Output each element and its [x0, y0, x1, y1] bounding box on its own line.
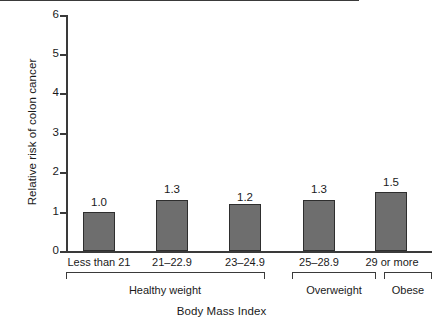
x-axis-title: Body Mass Index — [0, 305, 443, 317]
bar-value-2: 1.2 — [222, 191, 268, 203]
bar-chart: Relative risk of colon cancer 6 5 4 3 2 … — [0, 0, 443, 329]
y-tick-label-5: 5 — [29, 48, 59, 60]
group-label-healthy-weight: Healthy weight — [105, 284, 225, 296]
category-label-2: 23–24.9 — [214, 256, 276, 268]
bar-value-0: 1.0 — [76, 196, 122, 208]
category-label-1: 21–22.9 — [141, 256, 203, 268]
x-axis-baseline — [66, 251, 432, 253]
y-tick-label-2: 2 — [29, 166, 59, 178]
bar-value-4: 1.5 — [368, 176, 414, 188]
category-label-0: Less than 21 — [63, 256, 135, 268]
y-tick-label-4: 4 — [29, 87, 59, 99]
bar-0 — [83, 212, 115, 251]
bar-value-3: 1.3 — [296, 183, 342, 195]
y-tick-label-0: 0 — [29, 245, 59, 257]
group-label-obese: Obese — [383, 284, 433, 296]
y-axis-line — [66, 15, 68, 252]
group-label-overweight: Overweight — [294, 284, 374, 296]
group-bracket-obese — [384, 272, 432, 279]
bar-2 — [229, 204, 261, 251]
category-label-3: 25–28.9 — [288, 256, 350, 268]
reference-line-1 — [0, 0, 359, 1]
bar-4 — [375, 192, 407, 251]
group-bracket-healthy-weight — [66, 272, 265, 279]
y-tick-label-6: 6 — [29, 9, 59, 21]
y-tick-label-1: 1 — [29, 206, 59, 218]
bar-3 — [303, 200, 335, 251]
y-tick-label-3: 3 — [29, 127, 59, 139]
category-label-4: 29 or more — [355, 256, 429, 268]
group-bracket-overweight — [292, 272, 376, 279]
bar-1 — [156, 200, 188, 251]
bar-value-1: 1.3 — [149, 183, 195, 195]
